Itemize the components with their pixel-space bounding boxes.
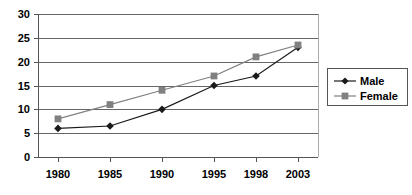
line-chart: 30 25 20 15 10 5 0 1980 1985 1990 1995 1… — [0, 0, 412, 195]
square-marker-icon — [211, 73, 218, 80]
square-marker-icon — [295, 42, 302, 49]
square-marker-icon — [159, 87, 166, 94]
y-label-15: 15 — [18, 80, 30, 92]
y-axis-labels: 30 25 20 15 10 5 0 — [18, 8, 30, 163]
diamond-marker-icon — [106, 122, 114, 130]
diamond-marker-icon — [54, 125, 62, 133]
x-label-1980: 1980 — [46, 168, 70, 180]
y-label-30: 30 — [18, 8, 30, 20]
diamond-marker-icon — [210, 82, 218, 90]
gridlines — [38, 14, 318, 133]
y-label-20: 20 — [18, 56, 30, 68]
legend-label-male: Male — [360, 75, 384, 87]
x-tick-marks — [58, 157, 298, 162]
diamond-marker-icon — [252, 72, 260, 80]
x-axis-labels: 1980 1985 1990 1995 1998 2003 — [46, 168, 310, 180]
x-label-1990: 1990 — [150, 168, 174, 180]
y-tick-marks — [34, 14, 38, 157]
square-marker-icon — [55, 115, 62, 122]
square-marker-icon — [253, 54, 260, 61]
series-female — [55, 42, 302, 123]
y-label-25: 25 — [18, 32, 30, 44]
square-marker-icon — [107, 101, 114, 108]
x-label-2003: 2003 — [286, 168, 310, 180]
legend-label-female: Female — [360, 90, 398, 102]
y-label-10: 10 — [18, 103, 30, 115]
series-line-male — [58, 47, 298, 128]
diamond-marker-icon — [158, 106, 166, 114]
x-label-1998: 1998 — [244, 168, 268, 180]
y-label-0: 0 — [24, 151, 30, 163]
chart-legend[interactable]: Male Female — [328, 69, 408, 106]
series-layer — [54, 42, 302, 133]
series-male — [54, 44, 302, 133]
x-label-1995: 1995 — [202, 168, 226, 180]
series-line-female — [58, 45, 298, 119]
chart-canvas: 30 25 20 15 10 5 0 1980 1985 1990 1995 1… — [0, 0, 412, 195]
x-label-1985: 1985 — [98, 168, 122, 180]
square-marker-icon — [342, 93, 349, 100]
y-label-5: 5 — [24, 127, 30, 139]
